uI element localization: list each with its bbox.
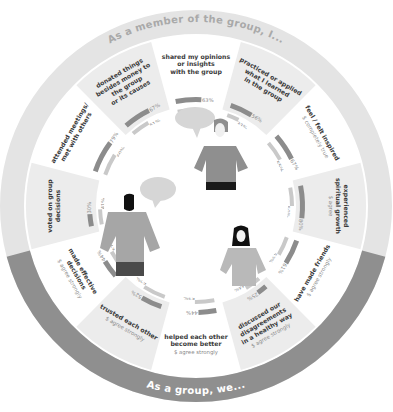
bar-secondary xyxy=(288,187,294,206)
bar-secondary xyxy=(98,209,104,224)
percent-primary: 80% xyxy=(298,219,304,231)
radial-infographic: As a member of the group, I...As a group… xyxy=(0,0,393,412)
speech-bubble-icon xyxy=(175,107,215,129)
radial-chart: As a member of the group, I...As a group… xyxy=(0,0,393,412)
percent-primary: 44% xyxy=(186,310,198,316)
percent-primary: 63% xyxy=(202,97,214,103)
speech-bubble-icon xyxy=(140,177,176,201)
bar-secondary xyxy=(195,298,215,304)
percent-primary: 30% xyxy=(86,202,92,214)
